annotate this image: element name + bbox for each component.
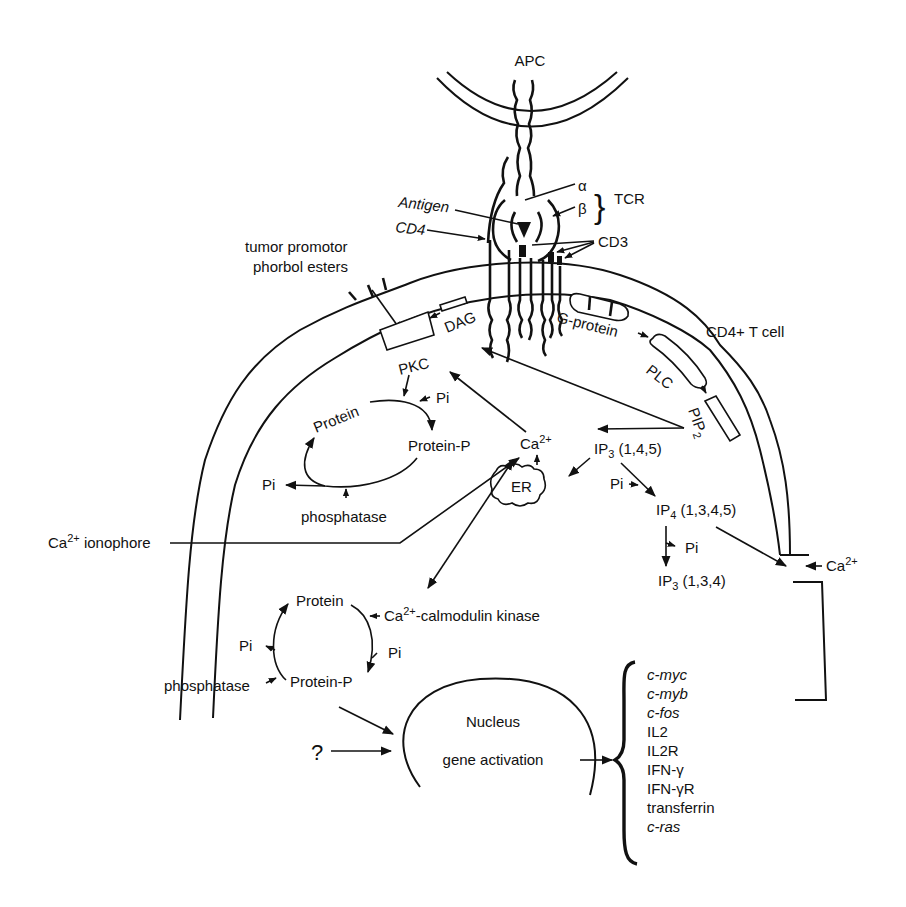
alpha-chain	[513, 80, 520, 196]
calmodulin-protein-p: Protein-P	[290, 673, 353, 690]
apc-label: APC	[515, 52, 546, 69]
gene-ifn-gamma: IFN-γ	[647, 761, 684, 778]
protein-to-protein-p-arc-2	[351, 605, 372, 672]
dag-to-pkc-arrow	[430, 313, 440, 318]
tcr-brace: }	[594, 187, 605, 225]
nucleus-subtitle: gene activation	[443, 751, 544, 768]
tm-strand-3	[518, 258, 522, 338]
gene-c-myb: c-myb	[647, 685, 688, 702]
beta-chain	[528, 80, 534, 196]
inositol-pathway: IP3 (1,4,5) Pi IP4 (1,3,4,5) Pi IP3 (1,3…	[569, 440, 858, 592]
unknown-input-label: ?	[311, 740, 323, 765]
gene-c-myc: c-myc	[647, 666, 687, 683]
g-protein-to-plc-arrow	[638, 333, 648, 337]
pip2-box	[705, 396, 740, 441]
pkc-cycle-phosphatase: phosphatase	[301, 508, 387, 525]
gene-transferrin: transferrin	[647, 799, 715, 816]
t-cell-label: CD4+ T cell	[706, 323, 784, 340]
tumor-promotor-label-2: phorbol esters	[253, 258, 348, 275]
protein-p-to-nucleus-arrow	[339, 707, 393, 734]
pi-2-arrow	[666, 543, 675, 546]
ca-to-calmodulin-arrow	[428, 460, 513, 588]
extracellular-ca-label: Ca2+	[826, 555, 858, 574]
tm-strand-5	[541, 260, 546, 356]
antigen-label: Antigen	[397, 193, 450, 215]
tm-strand-6	[550, 262, 554, 338]
pi-out-arrow	[286, 485, 325, 486]
protein-p-to-protein-arc-2	[274, 604, 289, 680]
antigen-shape	[517, 222, 531, 238]
g-protein-divider-1	[589, 297, 590, 310]
gene-c-fos: c-fos	[647, 704, 680, 721]
calcium-channel-lower	[793, 582, 826, 700]
calmodulin-cycle-protein: Protein	[296, 592, 344, 609]
pi-right-tick	[372, 653, 377, 658]
cd4-pointer	[427, 230, 485, 239]
t-cell-signaling-diagram: APC α β } TCR Antigen	[0, 0, 906, 907]
pkc-cycle-pi-out: Pi	[262, 476, 275, 493]
alpha-label: α	[578, 177, 587, 194]
protein-p-to-protein-arc	[305, 438, 417, 487]
beta-label: β	[578, 200, 587, 217]
nucleus-membrane	[403, 678, 595, 795]
ip3b-label: IP3 (1,3,4)	[658, 572, 726, 592]
er-label: ER	[511, 478, 532, 495]
cd4-label: CD4	[395, 218, 427, 238]
dag-box	[440, 297, 467, 311]
ionophore-label: Ca2+ ionophore	[48, 532, 151, 551]
pkc-label: PKC	[397, 354, 431, 378]
calmodulin-phosphatase: phosphatase	[164, 677, 250, 694]
ip4-to-channel-arrow	[716, 527, 786, 566]
protein-to-protein-p-arc	[370, 400, 432, 430]
gene-list: c-myc c-myb c-fos IL2 IL2R IFN-γ IFN-γR …	[647, 666, 715, 835]
gene-ifn-gamma-r: IFN-γR	[647, 780, 695, 797]
phosphatase-arrow-2	[266, 678, 276, 683]
ip-pi-2: Pi	[685, 539, 698, 556]
pip2-to-ip3-arrow	[598, 428, 684, 429]
tm-strand-4	[529, 258, 533, 340]
ip-pi-1: Pi	[610, 475, 623, 492]
gene-il2: IL2	[647, 723, 668, 740]
calmodulin-pi-left: Pi	[239, 637, 252, 654]
ca-to-pkc-arrow	[450, 372, 526, 432]
tcr-inner-right	[536, 212, 542, 242]
pi-1-arrow	[629, 484, 638, 485]
pkc-cycle-protein: Protein	[311, 402, 361, 436]
ip4-label: IP4 (1,3,4,5)	[656, 501, 736, 521]
phorbol-tick-3	[383, 278, 386, 290]
calmodulin-kinase-label: Ca2+-calmodulin kinase	[384, 605, 540, 624]
tcr-inner-left	[511, 212, 517, 242]
cd3-blob-2	[548, 252, 554, 262]
tumor-promotor-label-1: tumor promotor	[245, 238, 348, 255]
pkc-phosphorylation-cycle: Protein Pi Protein-P Pi phosphatase	[262, 375, 471, 525]
ip3-to-er-arrow	[569, 458, 590, 476]
tcr-label: TCR	[614, 190, 645, 207]
ip3-label: IP3 (1,4,5)	[594, 440, 662, 460]
ip3-to-ip4-arrow	[621, 463, 655, 496]
ca-label: Ca2+	[520, 433, 552, 452]
gene-il2r: IL2R	[647, 742, 679, 759]
cd3-label: CD3	[598, 233, 628, 250]
pkc-cycle-protein-p: Protein-P	[408, 437, 471, 454]
pkc-cycle-pi-in: Pi	[436, 389, 449, 406]
calmodulin-pi-right: Pi	[388, 644, 401, 661]
pi-in-arrow	[420, 397, 430, 401]
plc-label: PLC	[643, 361, 677, 392]
antigen-pointer	[455, 210, 518, 224]
tm-strand-2	[507, 250, 511, 362]
genes-brace	[615, 662, 637, 864]
pkc-dag: PKC DAG	[380, 297, 478, 378]
cd3-blob-1	[519, 245, 526, 257]
pkc-box	[380, 312, 434, 350]
pip2-label: PIP2	[682, 405, 711, 440]
phorbol-tick-1	[349, 292, 356, 300]
nucleus: Nucleus gene activation ?	[311, 678, 612, 795]
nucleus-title: Nucleus	[466, 713, 520, 730]
calcium-er: Ca2+ ER Ca2+ ionophore	[48, 372, 552, 588]
pkc-to-cycle-arrow	[404, 375, 409, 396]
gene-c-ras: c-ras	[647, 818, 681, 835]
dag-label: DAG	[442, 308, 479, 336]
